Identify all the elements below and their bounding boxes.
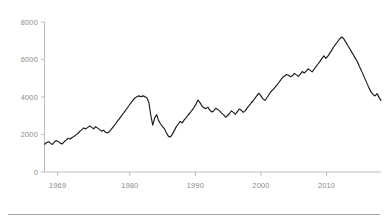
data-series-line [45, 37, 382, 144]
y-tick-label: 8000 [21, 18, 38, 27]
x-tick-group: 19691980199020002010 [49, 172, 335, 190]
y-tick-label: 4000 [21, 93, 38, 102]
plot-area [45, 37, 382, 144]
y-tick-group: 02000400060008000 [21, 18, 45, 177]
y-axis: 02000400060008000 [21, 18, 45, 177]
x-tick-label: 1990 [187, 181, 204, 190]
x-tick-label: 1969 [49, 181, 66, 190]
x-tick-label: 2010 [318, 181, 335, 190]
index-line-chart: 02000400060008000 19691980199020002010 [0, 0, 387, 224]
x-tick-label: 2000 [252, 181, 269, 190]
x-axis: 19691980199020002010 [45, 172, 382, 190]
chart-figure: 02000400060008000 19691980199020002010 [0, 0, 387, 224]
y-tick-label: 0 [34, 168, 38, 177]
y-tick-label: 6000 [21, 55, 38, 64]
y-tick-label: 2000 [21, 130, 38, 139]
x-tick-label: 1980 [121, 181, 138, 190]
